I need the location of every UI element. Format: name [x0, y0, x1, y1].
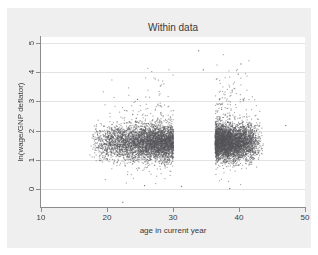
- x-axis-tick-mark: [173, 208, 174, 212]
- x-axis-tick-label: 50: [301, 213, 310, 222]
- chart-title: Within data: [41, 22, 305, 33]
- y-axis-tick-label: 5: [27, 41, 36, 45]
- x-axis-tick-mark: [41, 208, 42, 212]
- y-axis-tick-label: 3: [27, 99, 36, 103]
- y-axis-tick-mark: [36, 43, 40, 44]
- y-axis-tick-label: 4: [27, 70, 36, 74]
- scatter-plot-figure: Within data 012345 1020304050 ln(wage/GN…: [0, 0, 318, 255]
- y-axis-tick-label: 2: [27, 129, 36, 133]
- y-axis-tick-mark: [36, 101, 40, 102]
- y-axis-tick-mark: [36, 189, 40, 190]
- x-axis-tick-label: 20: [103, 213, 112, 222]
- y-axis-tick-label: 0: [27, 187, 36, 191]
- y-axis-tick-mark: [36, 131, 40, 132]
- x-axis-tick-mark: [239, 208, 240, 212]
- x-axis-tick-mark: [107, 208, 108, 212]
- y-axis-tick-label: 1: [27, 158, 36, 162]
- y-axis-title: ln(wage/GNP deflator): [16, 83, 25, 162]
- x-axis-tick-label: 30: [169, 213, 178, 222]
- y-axis-tick-mark: [36, 160, 40, 161]
- x-axis-tick-mark: [305, 208, 306, 212]
- x-axis-tick-label: 10: [37, 213, 46, 222]
- x-axis-title: age in current year: [41, 226, 305, 235]
- x-axis-tick-label: 40: [235, 213, 244, 222]
- y-axis-line: [40, 36, 41, 208]
- plot-region: [41, 37, 305, 207]
- scatter-points-layer: [41, 37, 305, 207]
- y-axis-tick-mark: [36, 72, 40, 73]
